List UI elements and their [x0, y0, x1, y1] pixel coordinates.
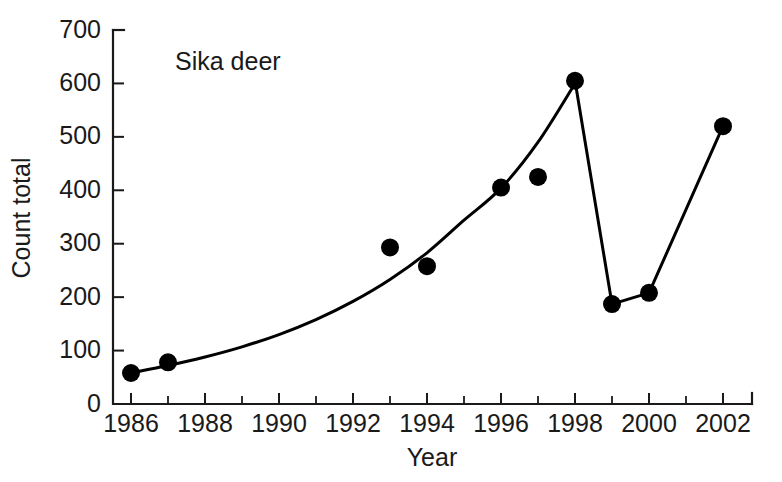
y-tick-label: 100 [59, 335, 101, 363]
sika-deer-line-chart: 0100200300400500600700 19861988199019921… [0, 0, 782, 482]
y-tick-label: 600 [59, 68, 101, 96]
y-tick-label: 500 [59, 121, 101, 149]
data-point-marker [566, 72, 584, 90]
x-tick-label: 1986 [103, 409, 159, 437]
data-point-marker [492, 179, 510, 197]
x-tick-label: 1994 [399, 409, 455, 437]
y-axis-tick-labels: 0100200300400500600700 [59, 15, 101, 417]
x-tick-label: 1992 [325, 409, 381, 437]
x-tick-label: 2002 [695, 409, 751, 437]
data-point-marker [714, 117, 732, 135]
y-tick-label: 700 [59, 15, 101, 43]
axis-spines [113, 30, 752, 404]
series-line-sika-deer [131, 81, 723, 373]
x-tick-label: 1990 [251, 409, 307, 437]
x-axis-ticks [131, 393, 723, 404]
data-point-marker [640, 284, 658, 302]
data-point-marker [529, 168, 547, 186]
y-tick-label: 400 [59, 175, 101, 203]
y-tick-label: 200 [59, 282, 101, 310]
x-axis-tick-labels: 198619881990199219941996199820002002 [103, 409, 751, 437]
series-markers-sika-deer [122, 72, 732, 382]
species-annotation-label: Sika deer [175, 47, 281, 75]
data-point-marker [381, 238, 399, 256]
x-tick-label: 1998 [547, 409, 603, 437]
data-point-marker [122, 364, 140, 382]
data-point-marker [418, 257, 436, 275]
data-point-marker [159, 353, 177, 371]
y-axis-title: Count total [7, 158, 35, 279]
y-tick-label: 0 [87, 389, 101, 417]
y-axis-ticks [113, 30, 124, 404]
x-tick-label: 1988 [177, 409, 233, 437]
chart-figure: 0100200300400500600700 19861988199019921… [0, 0, 782, 482]
x-tick-label: 2000 [621, 409, 677, 437]
data-point-marker [603, 295, 621, 313]
y-tick-label: 300 [59, 228, 101, 256]
x-tick-label: 1996 [473, 409, 529, 437]
x-axis-title: Year [407, 443, 458, 471]
